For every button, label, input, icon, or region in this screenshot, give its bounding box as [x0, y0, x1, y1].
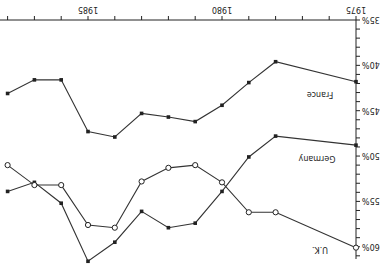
data-point-square	[274, 134, 278, 138]
data-point-square	[140, 210, 144, 214]
y-tick-label: 40%	[362, 60, 380, 69]
y-tick-label: 50%	[362, 151, 380, 160]
data-point-circle	[5, 163, 10, 168]
data-point-square	[86, 259, 90, 263]
data-point-square	[113, 240, 117, 244]
data-point-square	[6, 190, 10, 194]
data-point-circle	[59, 182, 64, 187]
series-line-uk	[8, 165, 356, 248]
data-point-square	[167, 115, 171, 119]
data-point-square	[354, 143, 358, 147]
data-point-square	[59, 78, 63, 82]
data-point-circle	[193, 163, 198, 168]
y-tick-label: 35%	[362, 15, 380, 24]
data-point-circle	[139, 179, 144, 184]
data-point-square	[247, 81, 251, 85]
chart-container: 19751980198535%40%45%50%55%60%FranceGerm…	[0, 0, 380, 269]
x-tick-label: 1975	[346, 5, 366, 14]
data-point-square	[220, 190, 224, 194]
data-point-square	[354, 80, 358, 84]
data-point-circle	[166, 165, 171, 170]
data-point-circle	[273, 210, 278, 215]
data-point-square	[193, 120, 197, 124]
data-point-square	[6, 92, 10, 96]
series-label: Germany	[298, 154, 335, 163]
y-tick-label: 60%	[362, 242, 380, 251]
data-point-square	[274, 60, 278, 64]
data-point-circle	[32, 182, 37, 187]
data-point-circle	[85, 222, 90, 227]
data-point-circle	[219, 180, 224, 185]
series-label: U.K.	[312, 245, 328, 254]
data-point-square	[247, 155, 251, 159]
data-point-square	[86, 130, 90, 134]
data-point-circle	[353, 245, 358, 250]
data-point-square	[140, 112, 144, 116]
data-point-square	[167, 226, 171, 230]
series-line-france	[8, 62, 356, 137]
data-point-circle	[112, 225, 117, 230]
data-point-circle	[246, 210, 251, 215]
data-point-square	[33, 78, 37, 82]
data-point-square	[220, 103, 224, 107]
data-point-square	[113, 135, 117, 139]
x-tick-label: 1985	[78, 5, 98, 14]
y-tick-label: 45%	[362, 106, 380, 115]
data-point-square	[59, 201, 63, 205]
series-label: France	[307, 90, 334, 99]
line-chart: 19751980198535%40%45%50%55%60%FranceGerm…	[0, 0, 380, 269]
y-tick-label: 55%	[362, 196, 380, 205]
data-point-square	[193, 221, 197, 225]
x-tick-label: 1980	[212, 5, 232, 14]
